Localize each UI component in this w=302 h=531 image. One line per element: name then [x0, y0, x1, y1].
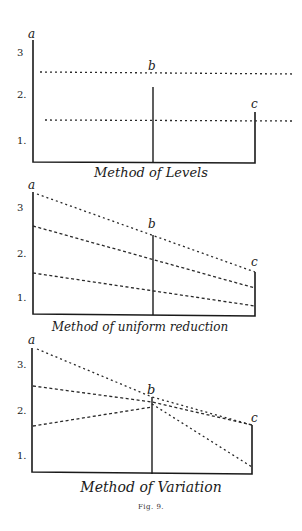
tick-3: 3	[17, 47, 23, 58]
tick-2: 2.	[17, 405, 27, 416]
axis-frame	[32, 348, 252, 474]
label-c: c	[251, 255, 258, 269]
label-a: a	[28, 333, 35, 347]
low-to-b-line	[33, 407, 152, 426]
tick-3: 3.	[17, 359, 27, 370]
label-c: c	[251, 411, 258, 425]
figure-9-diagram: a 3 2. 1. b c Method of Levels a 3 2. 1.…	[0, 0, 302, 531]
label-a: a	[28, 27, 35, 41]
figure-caption: Fig. 9.	[138, 503, 164, 511]
tick-3: 3	[17, 202, 23, 213]
tick-2: 2.	[17, 248, 27, 259]
tick-1: 1.	[17, 292, 27, 303]
mid-to-c-line	[33, 386, 252, 425]
label-c: c	[251, 97, 258, 111]
top-to-c-line	[37, 349, 252, 425]
middle-line	[33, 226, 255, 288]
panel-method-of-variation: a 3. 2. 1. b c Method of Variation	[17, 333, 258, 495]
axis-frame	[33, 40, 255, 163]
axis-frame	[33, 192, 255, 316]
panel-title: Method of Variation	[79, 479, 221, 495]
panel-method-of-levels: a 3 2. 1. b c Method of Levels	[17, 27, 295, 180]
upper-line	[37, 194, 255, 272]
panel-method-of-uniform-reduction: a 3 2. 1. b c Method of uniform reductio…	[17, 178, 258, 334]
label-b: b	[148, 59, 156, 73]
tick-1: 1.	[17, 135, 27, 146]
tick-1: 1.	[17, 450, 27, 461]
tick-2: 2.	[17, 89, 27, 100]
lower-line	[33, 273, 255, 306]
label-b: b	[148, 217, 156, 231]
panel-title: Method of uniform reduction	[51, 320, 229, 334]
panel-title: Method of Levels	[93, 165, 208, 180]
upper-level-line	[40, 72, 295, 74]
label-a: a	[28, 178, 35, 192]
